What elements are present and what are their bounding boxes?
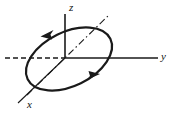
coordinate-orbit-figure: z y x [0, 0, 175, 117]
z-axis-label: z [69, 2, 73, 13]
y-axis-label: y [161, 51, 166, 62]
orbit-arrow-upper-left-icon [41, 30, 54, 40]
x-axis-label: x [27, 99, 32, 110]
orbit-major-axis [27, 14, 110, 95]
